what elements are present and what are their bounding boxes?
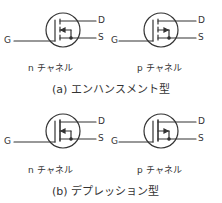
- gate-label: G: [111, 136, 118, 146]
- n-channel-label: n チャネル: [28, 61, 73, 74]
- caption-enhancement: (a) エンハンスメント型: [52, 80, 170, 96]
- gate-label: G: [111, 35, 118, 45]
- p-channel-label: p チャネル: [137, 61, 182, 74]
- source-label: S: [98, 133, 104, 143]
- n-channel-label: n チャネル: [28, 163, 73, 176]
- drain-label: D: [198, 116, 205, 126]
- gate-label: G: [4, 35, 11, 45]
- drain-label: D: [198, 15, 205, 25]
- caption-depletion: (b) デプレッション型: [52, 182, 159, 198]
- source-label: S: [198, 32, 204, 42]
- mosfet-enhancement-n-channel-symbol: [14, 13, 96, 47]
- mosfet-depletion-n-channel-symbol: [14, 114, 96, 148]
- drain-label: D: [98, 116, 105, 126]
- p-channel-label: p チャネル: [137, 163, 182, 176]
- gate-label: G: [4, 136, 11, 146]
- mosfet-enhancement-p-channel-symbol: [119, 13, 196, 47]
- mosfet-depletion-p-channel-symbol: [119, 114, 196, 148]
- drain-label: D: [98, 15, 105, 25]
- source-label: S: [98, 32, 104, 42]
- source-label: S: [198, 133, 204, 143]
